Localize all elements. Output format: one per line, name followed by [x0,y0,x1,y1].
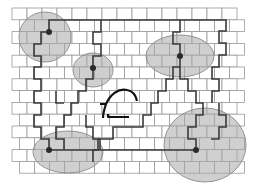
brick [117,32,132,44]
brick [35,114,50,126]
brick [110,43,125,55]
brick [162,79,177,91]
brick [110,161,125,173]
zone-bottom-right [164,108,246,182]
brick [140,91,155,103]
brick [222,32,237,44]
brick [147,126,162,138]
brick [50,91,65,103]
brick [155,20,170,32]
brick [185,20,200,32]
brick [87,102,102,114]
brick [230,20,245,32]
brick [215,91,230,103]
zone-bottom-left-marker-icon [46,147,52,153]
brick [12,102,27,114]
brick [140,114,155,126]
brick [155,91,170,103]
brick [57,79,72,91]
brick [230,67,245,79]
zone-center-small-marker-icon [90,65,96,71]
brick [102,32,117,44]
brick [65,114,80,126]
brick [185,91,200,103]
brick [117,150,132,162]
brick [80,114,95,126]
diagram-canvas [0,0,257,184]
brick [125,161,140,173]
brick [72,32,87,44]
brick [140,20,155,32]
brick [117,102,132,114]
brick [215,20,230,32]
brick [140,161,155,173]
brick [12,79,27,91]
brick [110,20,125,32]
brick [132,32,147,44]
brick [12,126,27,138]
brick [207,8,222,20]
brick [132,102,147,114]
brick [80,91,95,103]
brick [27,102,42,114]
brick [87,8,102,20]
brick [177,79,192,91]
brick [147,102,162,114]
brick [20,67,35,79]
zone-bottom-right-marker-icon [193,147,199,153]
brick [95,20,110,32]
brick [102,8,117,20]
brick [222,79,237,91]
brick [20,161,35,173]
brick [230,43,245,55]
brick [20,138,35,150]
brick [72,8,87,20]
brick [147,150,162,162]
brick [80,20,95,32]
brick [125,67,140,79]
brick [200,20,215,32]
brick [162,8,177,20]
brick [177,8,192,20]
brick [12,55,27,67]
brick [132,55,147,67]
brick [12,8,27,20]
brick [215,43,230,55]
brick [20,91,35,103]
brick [125,43,140,55]
brick [147,79,162,91]
brick [170,91,185,103]
brick [57,102,72,114]
brick [147,8,162,20]
brick-wall-crack-diagram [0,0,257,184]
brick [42,79,57,91]
brick [12,150,27,162]
brick [35,67,50,79]
brick [125,20,140,32]
brick [50,67,65,79]
brick [222,8,237,20]
brick [155,161,170,173]
brick [192,8,207,20]
brick [140,138,155,150]
brick [50,114,65,126]
brick [102,150,117,162]
zone-top-left-marker-icon [46,29,52,35]
brick [215,67,230,79]
brick [162,102,177,114]
brick [87,32,102,44]
brick [117,55,132,67]
brick [72,102,87,114]
brick [170,20,185,32]
brick [155,114,170,126]
brick [27,79,42,91]
brick [20,114,35,126]
brick [35,91,50,103]
brick [117,8,132,20]
brick [222,55,237,67]
brick [230,91,245,103]
brick [132,150,147,162]
brick [42,102,57,114]
brick [192,79,207,91]
zone-top-right-marker-icon [177,53,183,59]
